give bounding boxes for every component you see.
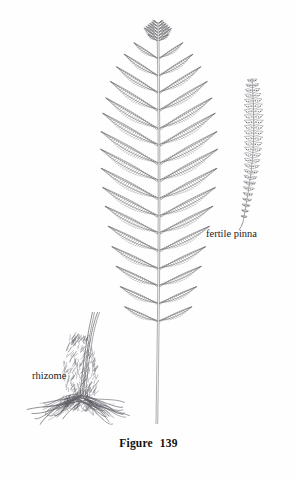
figure-caption: Figure139 bbox=[0, 437, 297, 449]
sterile-frond bbox=[100, 20, 218, 424]
botanical-plate bbox=[0, 0, 297, 479]
caption-number: 139 bbox=[160, 437, 178, 449]
caption-word: Figure bbox=[119, 437, 153, 449]
label-rhizome: rhizome bbox=[32, 370, 66, 381]
label-fertile-pinna: fertile pinna bbox=[206, 228, 257, 239]
rhizome-with-roots bbox=[27, 312, 129, 425]
fertile-pinna bbox=[239, 78, 263, 230]
artist-signature: scr bbox=[110, 402, 115, 406]
